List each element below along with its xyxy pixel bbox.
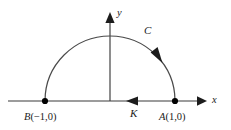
figure-canvas: y x C K B(−1,0) A(1,0) [0,0,231,130]
point-dot-a [172,98,178,104]
segment-direction-arrowhead-icon [126,96,138,105]
segment-label-k: K [130,108,137,119]
curve-label-c: C [144,25,151,36]
x-axis-arrowhead-icon [197,96,207,105]
point-label-b-coords: (−1,0) [30,111,56,122]
y-axis-label: y [117,8,122,19]
point-label-a-coords: (1,0) [165,111,185,122]
point-label-b: B(−1,0) [24,112,56,123]
arc-direction-arrowhead-icon [151,47,163,63]
y-axis-arrowhead-icon [105,12,114,23]
point-dot-b [42,98,48,104]
x-axis-label: x [212,95,217,106]
point-label-a: A(1,0) [159,112,186,123]
